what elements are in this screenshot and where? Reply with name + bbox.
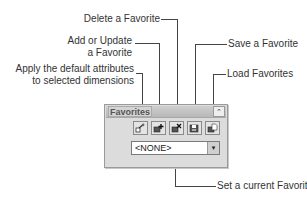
callout-add-update: Add or Update a Favorite [60,35,132,59]
callout-delete: Delete a Favorite [60,13,160,25]
callout-add-line2: a Favorite [60,47,132,59]
panel-titlebar: Favorites ⌃ [106,106,226,118]
add-update-favorite-button[interactable] [151,121,166,135]
load-favorites-button[interactable] [205,121,220,135]
delete-favorite-button[interactable] [169,121,184,135]
dropdown-value: <NONE> [135,143,172,154]
favorites-panel: Favorites ⌃ [104,104,228,168]
load-favorites-icon [207,123,218,133]
collapse-button[interactable]: ⌃ [213,106,225,117]
apply-defaults-button[interactable] [133,121,148,135]
callout-save: Save a Favorite [228,38,298,50]
callout-add-line1: Add or Update [60,35,132,47]
chevron-down-icon[interactable]: ▼ [207,142,219,154]
save-favorite-button[interactable] [187,121,202,135]
leader-line-save [195,44,227,45]
callout-set-current: Set a current Favorite [217,180,307,192]
callout-load: Load Favorites [227,68,293,80]
callout-apply-line1: Apply the default attributes [10,63,134,75]
panel-title: Favorites [108,106,152,117]
callout-apply-line2: to selected dimensions [10,75,134,87]
save-favorite-icon [189,123,200,133]
delete-favorite-icon [171,123,182,133]
callout-apply: Apply the default attributes to selected… [10,63,134,87]
leader-line-set-current [175,186,216,187]
chevron-up-icon: ⌃ [216,108,222,115]
leader-line-add [135,43,160,44]
add-favorite-icon [153,123,164,133]
leader-line-delete [161,19,178,20]
apply-attributes-icon [135,123,146,133]
leader-line-load [213,74,226,75]
current-favorite-dropdown[interactable]: <NONE> ▼ [131,141,220,155]
